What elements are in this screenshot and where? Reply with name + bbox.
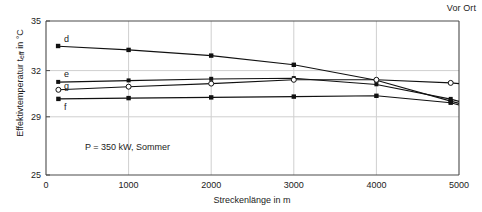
series-d-marker xyxy=(56,44,60,48)
series-g xyxy=(56,77,459,92)
series-e-marker xyxy=(56,80,60,84)
series-e-label: e xyxy=(64,69,69,79)
y-tick-label-35: 35 xyxy=(31,16,41,26)
y-tick-marks xyxy=(46,21,50,175)
x-tick-label-1000: 1000 xyxy=(119,180,139,190)
y-tick-label-29: 29 xyxy=(31,112,41,122)
series-f-marker xyxy=(56,97,60,101)
x-tick-label-2000: 2000 xyxy=(201,180,221,190)
series-e-marker xyxy=(209,77,213,81)
series-f-line xyxy=(58,96,459,105)
series-e-marker xyxy=(127,78,131,82)
series-g-marker xyxy=(374,77,379,82)
x-tick-label-4000: 4000 xyxy=(366,180,386,190)
y-tick-label-32: 32 xyxy=(31,66,41,76)
chart-figure: Vor Ort Effektivtemperatur teff in °C xyxy=(0,0,482,212)
series-g-marker xyxy=(56,87,61,92)
x-axis-title: Streckenlänge in m xyxy=(213,195,290,205)
plot-annotation: P = 350 kW, Sommer xyxy=(85,142,170,152)
series-f-label: f xyxy=(64,102,67,112)
series-d-line xyxy=(58,46,459,103)
series-g-label: g xyxy=(64,81,69,91)
series-g-marker xyxy=(209,81,214,86)
y-tick-label-25: 25 xyxy=(31,170,41,180)
x-tick-label-5000: 5000 xyxy=(449,180,469,190)
series-g-marker xyxy=(291,77,296,82)
series-d-label: d xyxy=(64,34,69,44)
series-e-marker xyxy=(449,97,453,101)
series-f-marker xyxy=(374,94,378,98)
series-f-marker xyxy=(449,101,453,105)
chart-plot-area: 35 32 29 25 0 1000 2000 3000 4000 5000 S… xyxy=(0,0,482,212)
series-g-marker xyxy=(126,84,131,89)
series-f-marker xyxy=(126,96,130,100)
series-f xyxy=(56,94,459,105)
series-f-marker xyxy=(209,95,213,99)
series-f-marker xyxy=(292,94,296,98)
series-e-marker xyxy=(374,82,378,86)
x-tick-label-3000: 3000 xyxy=(284,180,304,190)
series-d-marker xyxy=(126,48,130,52)
series-d xyxy=(56,44,459,104)
series-g-marker xyxy=(448,80,453,85)
series-d-marker xyxy=(292,63,296,67)
x-tick-label-0: 0 xyxy=(43,180,48,190)
series-d-marker xyxy=(209,53,213,57)
